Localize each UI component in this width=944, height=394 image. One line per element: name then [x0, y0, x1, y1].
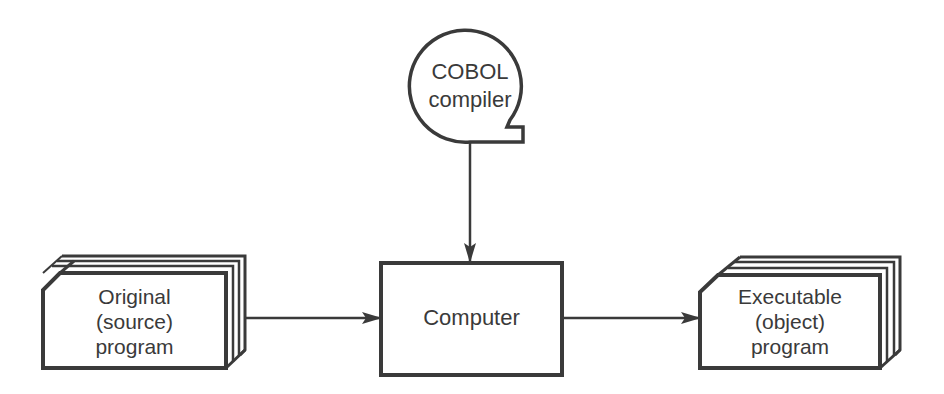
computer-label-text: Computer: [381, 305, 562, 331]
object-label-line-3: program: [700, 334, 880, 359]
object-label-line-1: Executable: [700, 284, 880, 309]
compiler-label: COBOL compiler: [410, 58, 530, 114]
compiler-label-line-1: COBOL: [410, 58, 530, 86]
source-label-line-2: (source): [43, 309, 226, 334]
compiler-label-line-2: compiler: [410, 86, 530, 114]
source-program-label: Original (source) program: [43, 284, 226, 359]
source-label-line-3: program: [43, 334, 226, 359]
object-program-label: Executable (object) program: [700, 284, 880, 359]
source-label-line-1: Original: [43, 284, 226, 309]
object-label-line-2: (object): [700, 309, 880, 334]
computer-label: Computer: [381, 305, 562, 331]
